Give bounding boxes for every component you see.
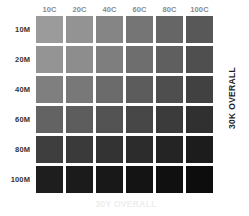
patch-row: 60M xyxy=(0,106,216,136)
color-patch xyxy=(36,166,63,193)
cmyk-patch-chart: 10C20C40C60C80C100C 10M20M40M60M80M100M … xyxy=(0,0,249,216)
color-patch xyxy=(186,76,213,103)
patch-strip xyxy=(36,46,216,73)
patch-strip xyxy=(36,166,216,193)
color-patch xyxy=(156,16,183,43)
color-patch xyxy=(96,76,123,103)
color-patch xyxy=(186,46,213,73)
color-patch xyxy=(96,136,123,163)
row-header: 20M xyxy=(0,46,36,73)
patch-row: 80M xyxy=(0,136,216,166)
right-axis-label-text: 30K OVERALL xyxy=(227,67,237,129)
color-patch xyxy=(36,76,63,103)
color-patch xyxy=(66,76,93,103)
color-patch xyxy=(126,136,153,163)
color-patch xyxy=(66,106,93,133)
patch-strip xyxy=(36,76,216,103)
color-patch xyxy=(126,16,153,43)
patch-row: 10M xyxy=(0,16,216,46)
patch-row: 40M xyxy=(0,76,216,106)
patch-strip xyxy=(36,106,216,133)
color-patch xyxy=(156,136,183,163)
color-patch xyxy=(66,136,93,163)
color-patch xyxy=(96,106,123,133)
color-patch xyxy=(126,106,153,133)
color-patch xyxy=(66,16,93,43)
color-patch xyxy=(156,106,183,133)
column-header-row: 10C20C40C60C80C100C xyxy=(36,3,216,16)
patch-row: 20M xyxy=(0,46,216,76)
row-header: 100M xyxy=(0,166,36,193)
color-patch xyxy=(66,166,93,193)
color-patch xyxy=(96,16,123,43)
color-patch xyxy=(36,136,63,163)
row-header: 40M xyxy=(0,76,36,103)
column-header: 10C xyxy=(36,3,66,16)
color-patch xyxy=(126,166,153,193)
column-header: 40C xyxy=(96,3,126,16)
row-header: 60M xyxy=(0,106,36,133)
color-patch xyxy=(96,46,123,73)
column-header: 80C xyxy=(156,3,186,16)
right-axis-label: 30K OVERALL xyxy=(217,0,247,196)
color-patch xyxy=(186,136,213,163)
bottom-axis-label: 30Y OVERALL xyxy=(36,197,216,211)
color-patch xyxy=(66,46,93,73)
color-patch xyxy=(36,16,63,43)
patch-grid: 10M20M40M60M80M100M xyxy=(0,16,216,196)
color-patch xyxy=(126,76,153,103)
color-patch xyxy=(186,166,213,193)
column-header: 20C xyxy=(66,3,96,16)
color-patch xyxy=(156,166,183,193)
color-patch xyxy=(156,46,183,73)
color-patch xyxy=(156,76,183,103)
color-patch xyxy=(186,106,213,133)
color-patch xyxy=(186,16,213,43)
color-patch xyxy=(36,46,63,73)
patch-strip xyxy=(36,136,216,163)
row-header: 80M xyxy=(0,136,36,163)
color-patch xyxy=(126,46,153,73)
column-header: 100C xyxy=(186,3,216,16)
patch-row: 100M xyxy=(0,166,216,196)
row-header: 10M xyxy=(0,16,36,43)
patch-strip xyxy=(36,16,216,43)
color-patch xyxy=(36,106,63,133)
color-patch xyxy=(96,166,123,193)
column-header: 60C xyxy=(126,3,156,16)
